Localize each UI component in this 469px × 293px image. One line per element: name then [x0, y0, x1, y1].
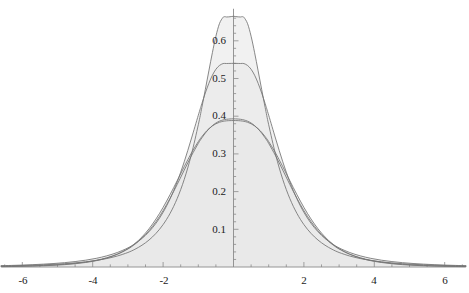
chart-canvas — [0, 0, 469, 293]
y-tick-label-0.6: 0.6 — [196, 35, 226, 46]
y-tick-label-0.3: 0.3 — [196, 148, 226, 159]
y-tick-label-0.1: 0.1 — [196, 224, 226, 235]
x-tick-label--6: -6 — [8, 275, 38, 286]
y-tick-label-0.5: 0.5 — [196, 73, 226, 84]
x-tick-label--4: -4 — [78, 275, 108, 286]
x-tick-label-2: 2 — [289, 275, 319, 286]
y-tick-label-0.4: 0.4 — [196, 110, 226, 121]
chart-container: 0.6 0.5 0.4 0.3 0.2 0.1 -6 -4 -2 2 4 6 — [0, 0, 469, 293]
axis-lines — [1, 9, 466, 267]
x-tick-label-4: 4 — [359, 275, 389, 286]
x-tick-label-6: 6 — [430, 275, 460, 286]
y-tick-label-0.2: 0.2 — [196, 186, 226, 197]
x-tick-label--2: -2 — [149, 275, 179, 286]
